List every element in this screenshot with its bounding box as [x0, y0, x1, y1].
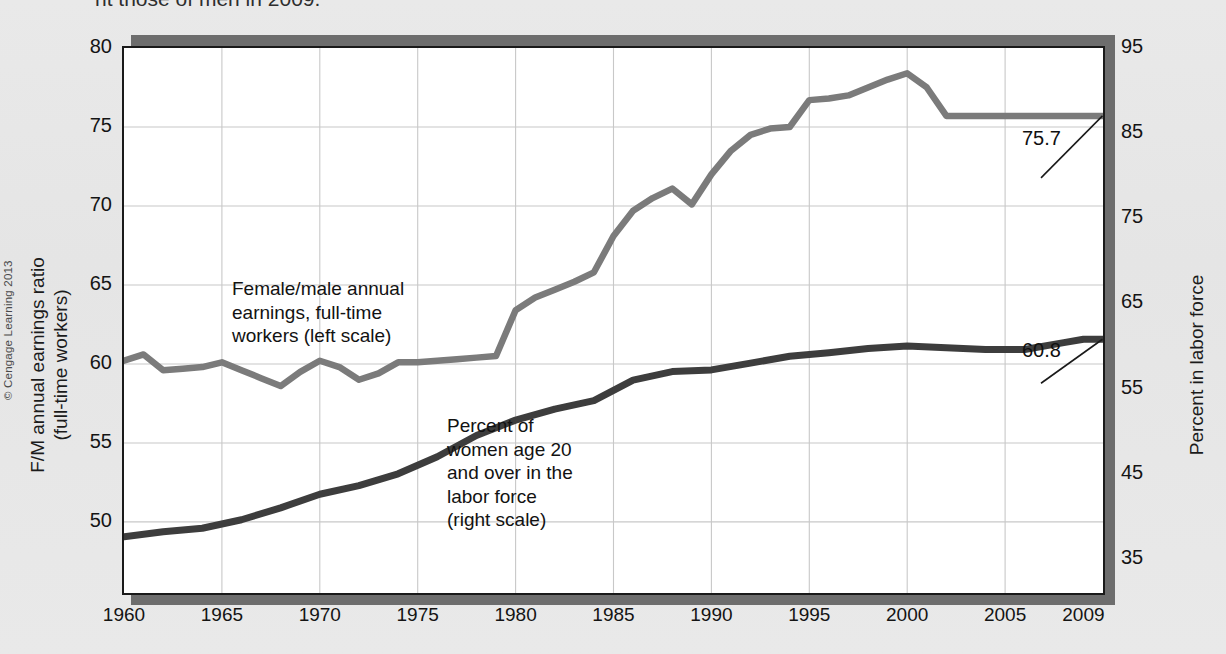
- left-axis-tick: 65: [60, 272, 112, 295]
- right-axis-tick: 65: [1121, 290, 1173, 313]
- right-axis-tick: 75: [1121, 205, 1173, 228]
- left-axis-tick: 50: [60, 509, 112, 532]
- left-axis-tick: 60: [60, 351, 112, 374]
- x-axis-tick: 1965: [187, 604, 257, 626]
- right-axis-tick: 35: [1121, 546, 1173, 569]
- left-axis-tick: 75: [60, 114, 112, 137]
- caption-text: nt those of men in 2009.: [95, 0, 320, 11]
- right-axis-tick: 45: [1121, 461, 1173, 484]
- x-axis-tick: 2009: [1048, 604, 1118, 626]
- left-axis-tick: 80: [60, 35, 112, 58]
- x-axis-tick: 1980: [481, 604, 551, 626]
- caption-strip: nt those of men in 2009.: [0, 0, 1226, 20]
- left-axis-tick: 70: [60, 193, 112, 216]
- annotation-female-male-ratio: Female/male annual earnings, full-time w…: [232, 277, 404, 348]
- end-label-75-7: 75.7: [1022, 127, 1061, 150]
- x-axis-tick: 2005: [970, 604, 1040, 626]
- left-axis-tick: 55: [60, 430, 112, 453]
- x-axis-tick: 1975: [383, 604, 453, 626]
- right-axis-tick: 95: [1121, 35, 1173, 58]
- right-axis-tick: 55: [1121, 376, 1173, 399]
- x-axis-tick: 2000: [872, 604, 942, 626]
- x-axis-tick: 1995: [774, 604, 844, 626]
- left-axis-title-line1: F/M annual earnings ratio: [27, 257, 48, 472]
- x-axis-tick: 1970: [285, 604, 355, 626]
- copyright-notice: © Cengage Learning 2013: [2, 260, 14, 400]
- x-axis-tick: 1985: [579, 604, 649, 626]
- x-axis-tick: 1960: [89, 604, 159, 626]
- right-axis-title: Percent in labor force: [1186, 190, 1208, 540]
- right-axis-tick: 85: [1121, 120, 1173, 143]
- annotation-women-labor-force: Percent of women age 20 and over in the …: [447, 414, 573, 532]
- x-axis-tick: 1990: [676, 604, 746, 626]
- end-label-60-8: 60.8: [1022, 339, 1061, 362]
